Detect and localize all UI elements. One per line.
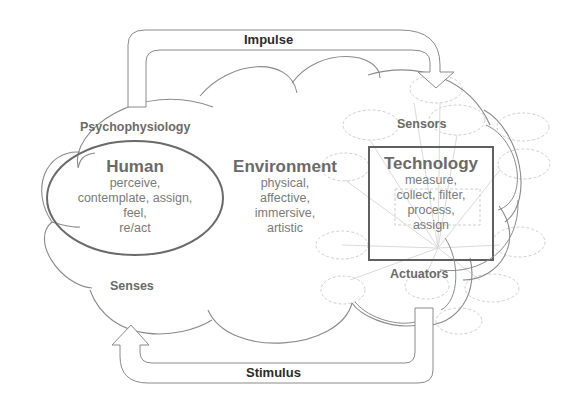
human-title: Human (55, 158, 215, 176)
environment-line: immersive, (210, 206, 360, 221)
environment-line: affective, (210, 191, 360, 206)
human-line: contemplate, assign, (55, 191, 215, 206)
technology-line: assign (369, 218, 493, 233)
environment-line: artistic (210, 221, 360, 236)
human-line: perceive, (55, 176, 215, 191)
environment-node: Environment physical, affective, immersi… (210, 158, 360, 236)
technology-line: measure, (369, 173, 493, 188)
human-node: Human perceive, contemplate, assign, fee… (55, 158, 215, 236)
technology-title: Technology (369, 155, 493, 173)
sensors-label: Sensors (397, 118, 446, 131)
psychophysiology-label: Psychophysiology (80, 121, 190, 134)
senses-label: Senses (110, 280, 154, 293)
technology-node: Technology measure, collect, filter, pro… (369, 155, 493, 233)
technology-line: process, (369, 203, 493, 218)
human-environment-technology-diagram: Impulse Stimulus Psychophysiology Human … (0, 0, 575, 411)
technology-line: collect, filter, (369, 188, 493, 203)
impulse-label: Impulse (244, 33, 293, 47)
human-line: re/act (55, 221, 215, 236)
environment-line: physical, (210, 176, 360, 191)
actuators-label: Actuators (390, 268, 448, 281)
human-line: feel, (55, 206, 215, 221)
environment-title: Environment (210, 158, 360, 176)
stimulus-label: Stimulus (246, 366, 301, 380)
